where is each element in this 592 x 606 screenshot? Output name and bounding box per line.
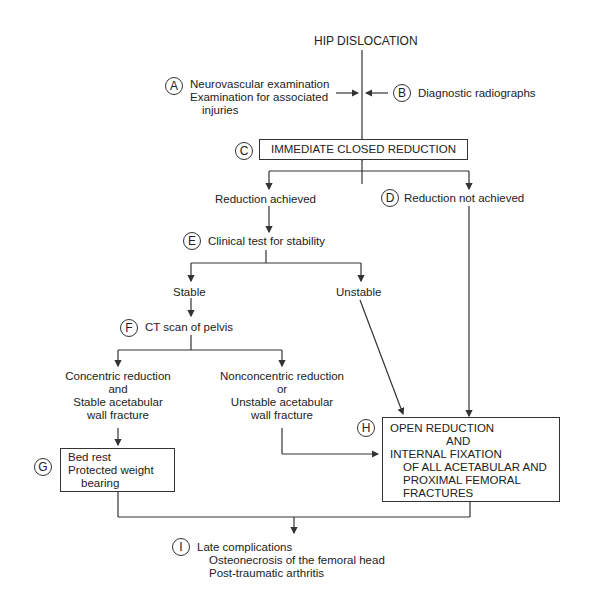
node-g-box: Bed rest Protected weight bearing xyxy=(60,448,175,492)
node-g-line1: Bed rest xyxy=(68,450,111,464)
node-nonconcentric-4: wall fracture xyxy=(207,408,357,422)
node-concentric-3: Stable acetabular xyxy=(48,395,188,409)
node-h-line2: AND xyxy=(446,434,470,448)
node-concentric-1: Concentric reduction xyxy=(48,369,188,383)
label-a: A xyxy=(165,77,183,95)
label-c: C xyxy=(235,142,253,160)
node-nonconcentric-2: or xyxy=(207,382,357,396)
hip-dislocation-title: HIP DISLOCATION xyxy=(314,34,418,48)
node-g-line3: bearing xyxy=(81,476,119,490)
node-nonconcentric-3: Unstable acetabular xyxy=(207,395,357,409)
label-h: H xyxy=(357,419,375,437)
node-stable: Stable xyxy=(173,285,206,299)
node-a-line1: Neurovascular examination xyxy=(190,77,329,91)
node-h-line6: FRACTURES xyxy=(403,486,473,500)
node-a-line3: injuries xyxy=(202,103,238,117)
node-c: IMMEDIATE CLOSED REDUCTION xyxy=(260,142,467,156)
node-g-line2: Protected weight xyxy=(68,463,154,477)
node-a-line2: Examination for associated xyxy=(190,90,328,104)
node-concentric-2: and xyxy=(48,382,188,396)
node-nonconcentric-1: Nonconcentric reduction xyxy=(207,369,357,383)
node-c-box: IMMEDIATE CLOSED REDUCTION xyxy=(259,139,468,160)
node-i-line1: Late complications xyxy=(197,540,292,554)
node-i-line2: Osteonecrosis of the femoral head xyxy=(209,553,385,567)
node-unstable: Unstable xyxy=(336,285,381,299)
label-b: B xyxy=(393,84,411,102)
node-concentric-4: wall fracture xyxy=(48,408,188,422)
label-g: G xyxy=(34,458,52,476)
label-f: F xyxy=(120,319,138,337)
node-h-line3: INTERNAL FIXATION xyxy=(390,447,502,461)
node-h-line5: PROXIMAL FEMORAL xyxy=(403,473,521,487)
node-d: Reduction not achieved xyxy=(404,191,524,205)
node-b: Diagnostic radiographs xyxy=(418,86,536,100)
node-h-line4: OF ALL ACETABULAR AND xyxy=(403,460,547,474)
node-e: Clinical test for stability xyxy=(208,234,325,248)
node-reduction-achieved: Reduction achieved xyxy=(215,192,316,206)
node-i-line3: Post-traumatic arthritis xyxy=(209,566,324,580)
node-f: CT scan of pelvis xyxy=(145,320,233,334)
node-h-line1: OPEN REDUCTION xyxy=(390,421,494,435)
node-h-box: OPEN REDUCTION AND INTERNAL FIXATION OF … xyxy=(382,417,560,502)
label-e: E xyxy=(183,232,201,250)
label-i: I xyxy=(172,538,190,556)
label-d: D xyxy=(381,189,399,207)
